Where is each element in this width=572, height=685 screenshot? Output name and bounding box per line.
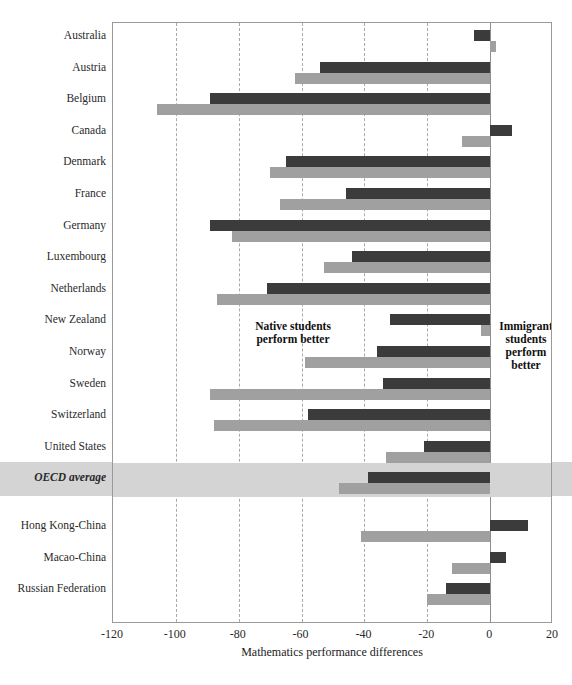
bar-canada-series1 (462, 136, 490, 147)
bar-denmark-series1 (270, 167, 490, 178)
bar-norway-series0 (377, 346, 490, 357)
annotation-native-students: Native students perform better (218, 320, 368, 346)
y-label-france: France (0, 187, 106, 199)
y-label-australia: Australia (0, 29, 106, 41)
annotation-immigrant-line1: Immigrant (495, 320, 552, 333)
y-label-hong-kong-china: Hong Kong-China (0, 519, 106, 531)
y-label-germany: Germany (0, 219, 106, 231)
y-label-austria: Austria (0, 61, 106, 73)
bar-france-series0 (346, 188, 491, 199)
y-label-belgium: Belgium (0, 92, 106, 104)
bar-norway-series1 (305, 357, 490, 368)
bar-netherlands-series1 (217, 294, 490, 305)
x-tick-label--120: -120 (101, 627, 123, 642)
bar-canada-series0 (490, 125, 512, 136)
bar-russian-federation-series0 (446, 583, 490, 594)
bar-austria-series1 (295, 73, 490, 84)
y-label-norway: Norway (0, 345, 106, 357)
y-label-russian-federation: Russian Federation (0, 582, 106, 594)
annotation-immigrant-students: Immigrant students perform better (495, 320, 552, 372)
bar-australia-series0 (474, 30, 490, 41)
bar-luxembourg-series1 (324, 262, 491, 273)
bar-sweden-series1 (210, 389, 490, 400)
bar-united-states-series1 (386, 452, 490, 463)
y-label-oecd-average: OECD average (0, 471, 106, 483)
y-label-denmark: Denmark (0, 155, 106, 167)
y-label-luxembourg: Luxembourg (0, 250, 106, 262)
plot-area: Native students perform better Immigrant… (112, 22, 552, 623)
x-tick-label--80: -80 (230, 627, 246, 642)
x-tick-label-0: 0 (486, 627, 492, 642)
y-label-new-zealand: New Zealand (0, 313, 106, 325)
x-tick-label-20: 20 (546, 627, 558, 642)
annotation-immigrant-line4: better (495, 359, 552, 372)
bar-hong-kong-china-series1 (361, 531, 490, 542)
y-label-sweden: Sweden (0, 377, 106, 389)
x-tick-label--60: -60 (293, 627, 309, 642)
bar-denmark-series0 (286, 156, 490, 167)
y-axis-labels: AustraliaAustriaBelgiumCanadaDenmarkFran… (0, 22, 106, 623)
y-label-macao-china: Macao-China (0, 551, 106, 563)
bar-united-states-series0 (424, 441, 490, 452)
bar-belgium-series0 (210, 93, 490, 104)
x-tick-label--20: -20 (418, 627, 434, 642)
bar-oecd-average-series0 (368, 472, 491, 483)
y-label-netherlands: Netherlands (0, 282, 106, 294)
bar-russian-federation-series1 (427, 594, 490, 605)
annotation-immigrant-line2: students (495, 333, 552, 346)
bar-germany-series0 (210, 220, 490, 231)
bar-belgium-series1 (157, 104, 490, 115)
bar-macao-china-series1 (452, 563, 490, 574)
bar-oecd-average-series1 (339, 483, 490, 494)
bar-new-zealand-series0 (390, 314, 491, 325)
bar-switzerland-series1 (214, 420, 491, 431)
annotation-immigrant-line3: perform (495, 346, 552, 359)
oecd-highlight-right (552, 462, 572, 496)
y-label-switzerland: Switzerland (0, 408, 106, 420)
bar-switzerland-series0 (308, 409, 490, 420)
bar-new-zealand-series1 (481, 325, 490, 336)
x-axis-ticks: -120-100-80-60-40-20020 (112, 627, 552, 643)
annotation-native-line1: Native students (218, 320, 368, 333)
bar-hong-kong-china-series0 (490, 520, 528, 531)
y-label-canada: Canada (0, 124, 106, 136)
bar-luxembourg-series0 (352, 251, 490, 262)
bar-france-series1 (280, 199, 491, 210)
bar-netherlands-series0 (267, 283, 490, 294)
x-tick-label--40: -40 (355, 627, 371, 642)
bar-germany-series1 (232, 231, 490, 242)
y-label-united-states: United States (0, 440, 106, 452)
chart-figure: AustraliaAustriaBelgiumCanadaDenmarkFran… (0, 0, 572, 685)
annotation-native-line2: perform better (218, 333, 368, 346)
bar-austria-series0 (320, 62, 490, 73)
bar-sweden-series0 (383, 378, 490, 389)
x-axis-title: Mathematics performance differences (112, 645, 552, 660)
bar-australia-series1 (490, 41, 496, 52)
x-tick-label--100: -100 (164, 627, 186, 642)
gridline-0 (490, 23, 491, 622)
bar-macao-china-series0 (490, 552, 506, 563)
